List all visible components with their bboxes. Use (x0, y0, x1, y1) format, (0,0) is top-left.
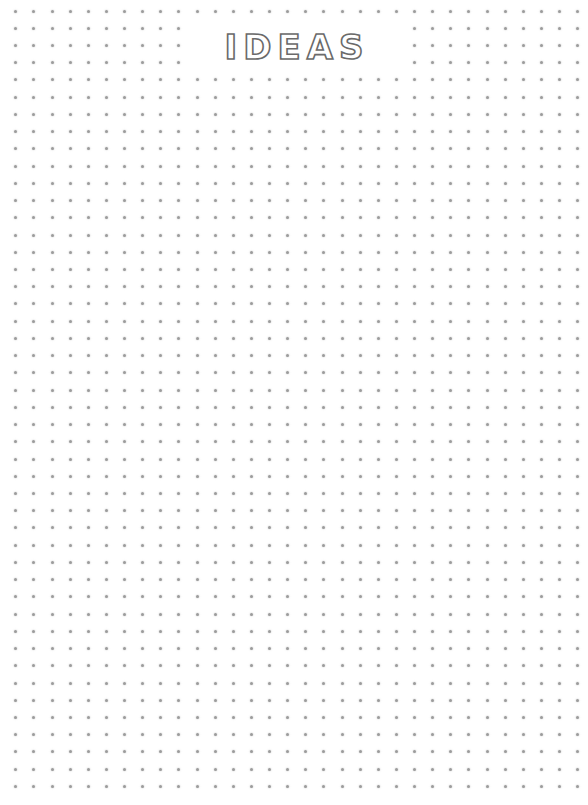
grid-dot (341, 234, 344, 237)
grid-dot (341, 458, 344, 461)
grid-dot (322, 458, 325, 461)
grid-dot (359, 199, 362, 202)
grid-dot (123, 320, 126, 323)
grid-dot (341, 475, 344, 478)
grid-dot (177, 389, 180, 392)
grid-dot (522, 130, 525, 133)
grid-dot (540, 199, 543, 202)
grid-dot (286, 544, 289, 547)
grid-dot (87, 406, 90, 409)
grid-dot (105, 492, 108, 495)
grid-dot (69, 354, 72, 357)
grid-dot (69, 768, 72, 771)
dot-grid (0, 0, 588, 805)
grid-dot (159, 768, 162, 771)
grid-dot (467, 320, 470, 323)
grid-dot (341, 544, 344, 547)
grid-dot (87, 113, 90, 116)
grid-dot (558, 423, 561, 426)
grid-dot (576, 768, 579, 771)
grid-dot (304, 492, 307, 495)
grid-dot (449, 27, 452, 30)
grid-dot (32, 371, 35, 374)
grid-dot (51, 302, 54, 305)
grid-dot (14, 27, 17, 30)
grid-dot (159, 216, 162, 219)
grid-dot (322, 268, 325, 271)
grid-dot (286, 182, 289, 185)
grid-dot (232, 509, 235, 512)
grid-dot (51, 561, 54, 564)
grid-dot (214, 285, 217, 288)
grid-dot (467, 423, 470, 426)
grid-dot (359, 337, 362, 340)
grid-dot (540, 61, 543, 64)
grid-dot (322, 302, 325, 305)
grid-dot (486, 475, 489, 478)
grid-dot (522, 613, 525, 616)
grid-dot (395, 320, 398, 323)
grid-dot (286, 595, 289, 598)
grid-dot (69, 509, 72, 512)
grid-dot (322, 113, 325, 116)
grid-dot (540, 216, 543, 219)
grid-dot (123, 630, 126, 633)
grid-dot (395, 492, 398, 495)
grid-dot (232, 630, 235, 633)
grid-dot (177, 664, 180, 667)
grid-dot (431, 113, 434, 116)
grid-dot (250, 10, 253, 13)
grid-dot (123, 595, 126, 598)
grid-dot (359, 78, 362, 81)
grid-dot (359, 440, 362, 443)
grid-dot (268, 354, 271, 357)
grid-dot (232, 768, 235, 771)
grid-dot (304, 768, 307, 771)
grid-dot (232, 337, 235, 340)
grid-dot (87, 750, 90, 753)
grid-dot (576, 147, 579, 150)
grid-dot (14, 371, 17, 374)
grid-dot (32, 199, 35, 202)
grid-dot (32, 302, 35, 305)
grid-dot (304, 423, 307, 426)
grid-dot (522, 234, 525, 237)
grid-dot (214, 78, 217, 81)
grid-dot (32, 113, 35, 116)
grid-dot (341, 199, 344, 202)
grid-dot (486, 61, 489, 64)
grid-dot (159, 750, 162, 753)
grid-dot (177, 165, 180, 168)
grid-dot (141, 733, 144, 736)
grid-dot (431, 147, 434, 150)
grid-dot (105, 285, 108, 288)
grid-dot (486, 630, 489, 633)
grid-dot (540, 613, 543, 616)
grid-dot (486, 699, 489, 702)
grid-dot (377, 750, 380, 753)
grid-dot (159, 733, 162, 736)
title-banner: IDEAS (186, 19, 408, 71)
grid-dot (214, 682, 217, 685)
grid-dot (69, 647, 72, 650)
grid-dot (486, 234, 489, 237)
grid-dot (87, 10, 90, 13)
grid-dot (196, 716, 199, 719)
grid-dot (87, 182, 90, 185)
grid-dot (123, 337, 126, 340)
grid-dot (486, 147, 489, 150)
grid-dot (196, 96, 199, 99)
grid-dot (558, 544, 561, 547)
grid-dot (522, 44, 525, 47)
grid-dot (232, 234, 235, 237)
grid-dot (486, 337, 489, 340)
grid-dot (359, 664, 362, 667)
grid-dot (540, 165, 543, 168)
grid-dot (105, 699, 108, 702)
grid-dot (576, 389, 579, 392)
grid-dot (69, 664, 72, 667)
grid-dot (159, 78, 162, 81)
grid-dot (268, 371, 271, 374)
grid-dot (395, 165, 398, 168)
grid-dot (413, 595, 416, 598)
